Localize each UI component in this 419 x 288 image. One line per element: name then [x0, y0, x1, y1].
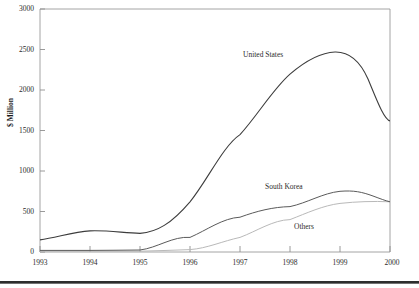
y-axis-title: $ Million	[6, 85, 15, 141]
series-line-united-states	[40, 52, 390, 240]
y-axis-ticks	[40, 9, 45, 252]
x-tick-label: 1997	[220, 258, 260, 267]
x-tick-label: 1994	[70, 258, 110, 267]
chart-container: 0 500 1000 1500 2000 2500 3000 $ Million…	[0, 0, 419, 288]
y-tick-label: 3000	[4, 5, 34, 13]
x-tick-label: 1996	[170, 258, 210, 267]
y-tick-label: 2500	[4, 46, 34, 54]
x-tick-label: 1995	[120, 258, 160, 267]
y-tick-label: 0	[4, 248, 34, 256]
series-label-united-states: United States	[243, 50, 283, 59]
axis-frame	[40, 9, 390, 252]
plot-area	[0, 0, 419, 288]
series-line-south-korea	[40, 191, 390, 250]
series-label-south-korea: South Korea	[265, 182, 303, 191]
x-tick-label: 2000	[372, 258, 412, 267]
page-bottom-rule	[0, 281, 419, 284]
x-tick-label: 1998	[270, 258, 310, 267]
y-tick-label: 500	[4, 208, 34, 216]
series-label-others: Others	[294, 222, 314, 231]
x-tick-label: 1993	[20, 258, 60, 267]
y-tick-label: 1000	[4, 167, 34, 175]
x-tick-label: 1999	[320, 258, 360, 267]
series-line-others	[40, 201, 390, 251]
